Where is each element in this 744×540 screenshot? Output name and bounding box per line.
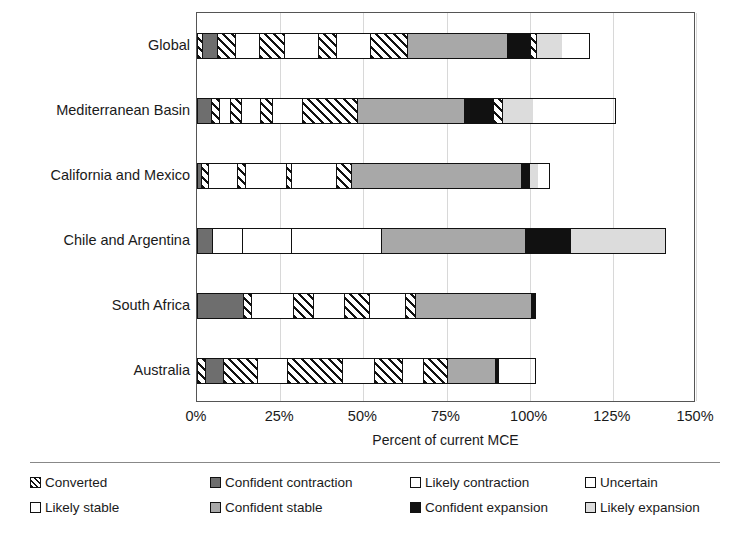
legend-label: Confident expansion [425, 500, 548, 515]
legend: ConvertedConfident contractionLikely con… [30, 462, 720, 515]
bar-segment[interactable] [198, 359, 206, 383]
legend-label: Confident stable [225, 500, 323, 515]
bar-segment[interactable] [258, 359, 288, 383]
bar-segment[interactable] [508, 34, 531, 58]
bar-segment[interactable] [537, 34, 562, 58]
bar-segment[interactable] [198, 229, 213, 253]
bar-segment[interactable] [448, 359, 496, 383]
gridline [363, 13, 364, 401]
stacked-bar[interactable] [197, 358, 536, 384]
bar-segment[interactable] [358, 99, 465, 123]
bar-segment[interactable] [314, 294, 345, 318]
gridline [280, 13, 281, 401]
bar-segment[interactable] [212, 99, 220, 123]
bar-segment[interactable] [294, 294, 314, 318]
bar-segment[interactable] [503, 99, 533, 123]
bar-segment[interactable] [288, 359, 343, 383]
bar-segment[interactable] [371, 34, 409, 58]
bar-segment[interactable] [532, 294, 535, 318]
bar-segment[interactable] [337, 164, 352, 188]
gridline [530, 13, 531, 401]
legend-item-confident-expansion[interactable]: Confident expansion [410, 500, 585, 515]
stacked-bar[interactable] [197, 33, 590, 59]
bar-segment[interactable] [203, 34, 218, 58]
bar-segment[interactable] [526, 229, 571, 253]
bar-segment[interactable] [416, 294, 532, 318]
bar-segment[interactable] [496, 359, 499, 383]
y-axis-label-australia: Australia [10, 363, 190, 378]
y-axis-labels: GlobalMediterranean BasinCalifornia and … [6, 12, 190, 402]
legend-item-likely-expansion[interactable]: Likely expansion [585, 500, 720, 515]
bar-segment[interactable] [198, 99, 212, 123]
bar-segment[interactable] [352, 164, 523, 188]
legend-item-confident-stable[interactable]: Confident stable [210, 500, 410, 515]
bar-segment[interactable] [260, 34, 286, 58]
bar-segment[interactable] [202, 164, 209, 188]
bar-segment[interactable] [303, 99, 358, 123]
legend-label: Likely contraction [425, 475, 529, 490]
bar-segment[interactable] [424, 359, 448, 383]
bar-segment[interactable] [242, 99, 261, 123]
y-axis-label-california-and-mexico: California and Mexico [10, 168, 190, 183]
x-tick-150: 150% [665, 408, 725, 424]
bar-segment[interactable] [370, 294, 407, 318]
legend-item-likely-contraction[interactable]: Likely contraction [410, 475, 585, 490]
bar-segment[interactable] [261, 99, 274, 123]
bar-segment[interactable] [213, 229, 243, 253]
legend-label: Uncertain [600, 475, 658, 490]
gridline [613, 13, 614, 401]
legend-item-likely-stable[interactable]: Likely stable [30, 500, 210, 515]
bar-segment[interactable] [244, 294, 252, 318]
bar-segment[interactable] [285, 34, 319, 58]
bar-segment[interactable] [494, 99, 503, 123]
y-axis-label-south-africa: South Africa [10, 298, 190, 313]
bar-segment[interactable] [218, 34, 236, 58]
bar-segment[interactable] [571, 229, 665, 253]
legend-item-uncertain[interactable]: Uncertain [585, 475, 720, 490]
bar-segment[interactable] [382, 229, 526, 253]
bar-segment[interactable] [220, 99, 231, 123]
legend-item-confident-contraction[interactable]: Confident contraction [210, 475, 410, 490]
plot-area [196, 12, 695, 402]
bar-segment[interactable] [198, 294, 244, 318]
bar-segment[interactable] [236, 34, 260, 58]
bar-segment[interactable] [375, 359, 404, 383]
stacked-bar[interactable] [197, 228, 666, 254]
bar-segment[interactable] [292, 164, 337, 188]
bar-segment[interactable] [209, 164, 238, 188]
bar-segment[interactable] [246, 164, 288, 188]
bar-row [197, 98, 696, 124]
bar-segment[interactable] [273, 99, 303, 123]
bar-segment[interactable] [345, 294, 370, 318]
bar-segment[interactable] [408, 34, 507, 58]
stacked-bar[interactable] [197, 98, 616, 124]
bar-segment[interactable] [343, 359, 375, 383]
stacked-bar[interactable] [197, 293, 536, 319]
legend-item-converted[interactable]: Converted [30, 475, 210, 490]
bar-segment[interactable] [406, 294, 416, 318]
x-tick-125: 125% [582, 408, 642, 424]
bar-segment[interactable] [243, 229, 293, 253]
bar-segment[interactable] [292, 229, 381, 253]
stacked-bar[interactable] [197, 163, 550, 189]
bar-segment[interactable] [530, 164, 538, 188]
bar-segment[interactable] [319, 34, 337, 58]
bar-segment[interactable] [238, 164, 246, 188]
bar-row [197, 228, 696, 254]
bar-segment[interactable] [403, 359, 424, 383]
legend-swatch-icon [585, 502, 596, 513]
bar-segment[interactable] [231, 99, 242, 123]
legend-label: Confident contraction [225, 475, 353, 490]
bar-segment[interactable] [206, 359, 224, 383]
bar-segment[interactable] [224, 359, 259, 383]
legend-swatch-icon [210, 502, 221, 513]
legend-swatch-icon [30, 502, 41, 513]
bar-segment[interactable] [337, 34, 371, 58]
x-tick-25: 25% [249, 408, 309, 424]
y-axis-label-chile-and-argentina: Chile and Argentina [10, 233, 190, 248]
bar-segment[interactable] [465, 99, 494, 123]
legend-swatch-icon [410, 502, 421, 513]
bar-segment[interactable] [522, 164, 530, 188]
bar-segment[interactable] [531, 34, 538, 58]
bar-segment[interactable] [252, 294, 295, 318]
